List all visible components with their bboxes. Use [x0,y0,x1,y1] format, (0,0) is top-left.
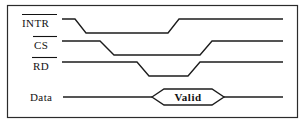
data-valid-label: Valid [174,91,201,103]
waveform-intr [62,19,283,33]
signal-label-data: Data [30,91,52,103]
timing-diagram-canvas: INTR CS RD Data Valid [0,0,306,126]
signal-label-intr: INTR [22,17,50,29]
waveform-cs [62,41,283,55]
waveform-rd [62,62,283,76]
signal-row-rd: RD [32,58,283,77]
timing-diagram-figure: INTR CS RD Data Valid [0,0,306,126]
signal-label-cs: CS [34,39,48,51]
signal-row-intr: INTR [22,15,283,34]
signal-row-cs: CS [33,37,283,56]
signal-label-rd: RD [33,60,49,72]
signal-row-data: Data Valid [30,89,283,105]
